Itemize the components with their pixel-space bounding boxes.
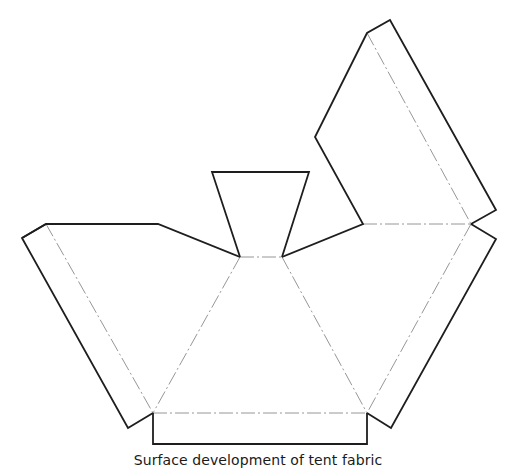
fold-line-upper-right-flap <box>367 33 471 224</box>
fold-line-right <box>367 224 471 413</box>
fold-line-left-flap <box>46 224 153 413</box>
tent-fabric-development-diagram <box>0 0 516 474</box>
cut-lines <box>22 20 496 444</box>
fold-line-center-left <box>153 257 240 413</box>
fold-lines <box>46 33 471 413</box>
upper-right-panel-outline <box>282 20 496 257</box>
figure-caption: Surface development of tent fabric <box>0 452 516 468</box>
left-flap-outline <box>22 224 153 428</box>
top-trapezoid-outline <box>212 172 309 257</box>
fold-line-center-right <box>282 257 367 413</box>
left-panel-outline <box>22 224 240 257</box>
right-panel-outline <box>367 224 496 428</box>
bottom-flap-outline <box>153 413 367 444</box>
